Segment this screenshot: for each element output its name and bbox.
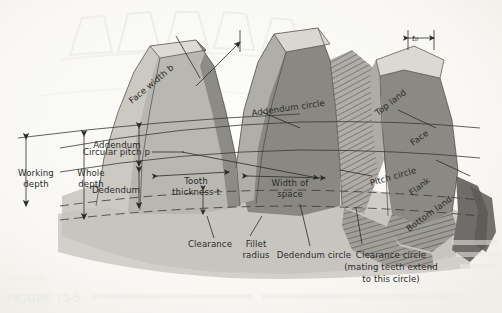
- label-width-of-space-line2: space: [277, 189, 303, 199]
- label-clearance: Clearance: [188, 239, 232, 249]
- label-width-of-space-line1: Width of: [272, 178, 310, 188]
- gear-tooth-nomenclature-figure: Face width b Top land t₀ Face Flank Bott…: [0, 0, 502, 313]
- label-whole-depth-line2: depth: [78, 179, 104, 189]
- label-working-depth-line2: depth: [23, 179, 49, 189]
- label-working-depth-line1: Working: [18, 168, 54, 178]
- label-tooth-thickness-line2: thickness t: [172, 187, 220, 197]
- bleed-through-caption: FIGURE 13-5: [6, 292, 81, 305]
- label-dedendum-circle-line1: Dedendum circle: [277, 250, 351, 260]
- label-clearance-circle-line2: (mating teeth extend: [344, 262, 438, 272]
- label-tooth-thickness-line1: Tooth: [183, 176, 208, 186]
- label-top-land-dimension: t₀: [412, 34, 418, 43]
- label-clearance-circle-line3: to this circle): [362, 274, 419, 284]
- label-whole-depth-line1: Whole: [77, 168, 104, 178]
- label-fillet-radius-line2: radius: [242, 250, 270, 260]
- label-fillet-radius-line1: Fillet: [246, 239, 267, 249]
- label-clearance-circle-line1: Clearance circle: [356, 250, 426, 260]
- label-addendum: Addendum: [93, 140, 140, 150]
- figure-canvas: Face width b Top land t₀ Face Flank Bott…: [0, 0, 502, 313]
